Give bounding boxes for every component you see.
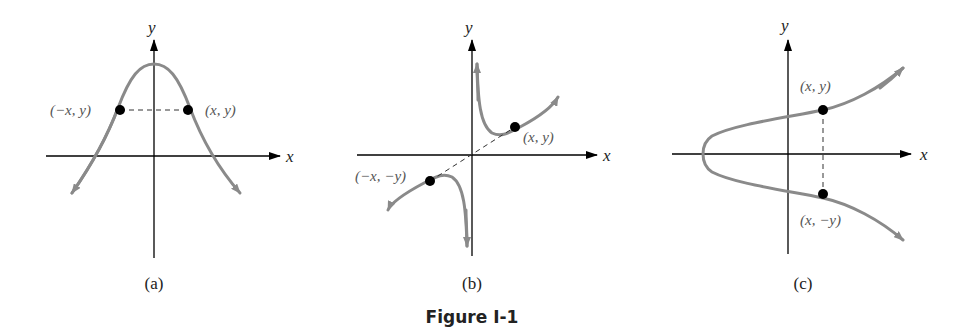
y-axis-label: y <box>463 18 473 37</box>
point-neg-x-neg-y <box>425 176 435 186</box>
y-axis-label: y <box>779 16 789 35</box>
subfigure-label: (c) <box>794 274 813 293</box>
point-label: (−x, y) <box>50 102 91 119</box>
y-axis-label: y <box>146 18 156 37</box>
upper-arm-arrow <box>880 68 903 88</box>
panel-b: x y (x, y) (−x, −y) (b) <box>355 18 611 293</box>
upper-branch-arrow <box>477 64 478 100</box>
x-axis-label: x <box>602 146 611 165</box>
x-axis-label: x <box>919 145 928 164</box>
point-neg-x-y <box>115 105 125 115</box>
point-x-neg-y <box>818 189 828 199</box>
hyperbola-lower-branch <box>388 175 467 246</box>
subfigure-label: (b) <box>462 274 482 293</box>
subfigure-label: (a) <box>145 274 164 293</box>
bell-curve-left-arrow <box>72 108 118 193</box>
figure-caption: Figure I-1 <box>426 307 519 327</box>
bell-curve <box>72 64 240 193</box>
x-axis-label: x <box>285 147 294 166</box>
figure-canvas: x y (−x, y) (x, y) (a) x y (x, y) (−x, −… <box>0 0 965 329</box>
point-label: (x, y) <box>205 102 236 119</box>
lower-branch-arrow <box>466 210 467 246</box>
point-x-y <box>818 105 828 115</box>
point-x-y <box>510 122 520 132</box>
point-x-y <box>183 105 193 115</box>
point-label: (x, y) <box>523 129 554 146</box>
point-label: (x, y) <box>800 78 831 95</box>
point-label: (x, −y) <box>800 212 841 229</box>
panel-a: x y (−x, y) (x, y) (a) <box>46 18 294 293</box>
panel-c: x y (x, y) (x, −y) (c) <box>672 16 928 293</box>
point-label: (−x, −y) <box>355 168 406 185</box>
